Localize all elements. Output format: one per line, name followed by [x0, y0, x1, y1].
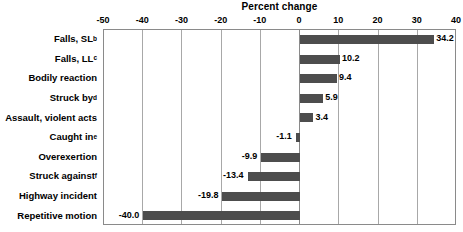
category-label: Overexertion: [38, 147, 97, 167]
bar: [300, 94, 323, 103]
category-label-text: Bodily reaction: [28, 72, 97, 83]
chart-title: Percent change: [103, 0, 456, 14]
category-label-text: Falls, LL: [55, 53, 94, 64]
bar: [248, 172, 301, 181]
bar-row: [104, 128, 455, 148]
bar-row: [104, 30, 455, 50]
x-tick-label-neg10: -10: [253, 15, 266, 26]
category-label: Assault, violent acts: [5, 107, 97, 127]
category-label: Falls, SLb: [54, 29, 97, 49]
x-tick-label-0: 0: [297, 15, 302, 26]
percent-change-bar-chart: Percent change -50-40-30-20-10010203040 …: [0, 0, 463, 232]
plot-area: [103, 29, 456, 225]
bar: [300, 113, 313, 122]
bar-row: [104, 69, 455, 89]
category-label: Struck byd: [50, 88, 97, 108]
category-label: Caught ine: [50, 127, 97, 147]
category-label: Highway incident: [19, 186, 97, 206]
bar: [300, 55, 340, 64]
category-label: Bodily reaction: [28, 68, 97, 88]
x-tick-label-neg20: -20: [214, 15, 227, 26]
bar-row: [104, 167, 455, 187]
category-label-text: Struck against: [29, 170, 94, 181]
bar: [222, 192, 300, 201]
category-label: Repetitive motion: [17, 205, 97, 225]
x-axis-tick-labels: -50-40-30-20-10010203040: [0, 15, 463, 28]
category-label-text: Struck by: [50, 92, 93, 103]
category-label: Falls, LLc: [55, 49, 97, 69]
x-tick-label-neg30: -30: [175, 15, 188, 26]
x-tick-label-20: 20: [373, 15, 383, 26]
bar-row: [104, 50, 455, 70]
bar-row: [104, 108, 455, 128]
bar-row: [104, 187, 455, 207]
category-label-text: Assault, violent acts: [5, 112, 97, 123]
category-label-text: Caught in: [50, 131, 94, 142]
x-tick-label-40: 40: [451, 15, 461, 26]
bar: [296, 133, 300, 142]
bars-layer: [104, 30, 455, 224]
category-label-text: Highway incident: [19, 190, 97, 201]
bar-row: [104, 89, 455, 109]
bar: [300, 74, 337, 83]
category-label-text: Falls, SL: [54, 33, 93, 44]
bar: [143, 211, 300, 220]
x-tick-label-10: 10: [333, 15, 343, 26]
x-tick-label-30: 30: [412, 15, 422, 26]
bar-row: [104, 206, 455, 226]
bar: [261, 153, 300, 162]
category-label-text: Overexertion: [38, 151, 97, 162]
bar: [300, 35, 434, 44]
category-axis-labels: Falls, SLbFalls, LLcBodily reactionStruc…: [0, 29, 100, 225]
x-tick-label-neg50: -50: [96, 15, 109, 26]
bar-row: [104, 148, 455, 168]
x-tick-label-neg40: -40: [136, 15, 149, 26]
category-label: Struck againstf: [29, 166, 97, 186]
category-label-text: Repetitive motion: [17, 210, 97, 221]
